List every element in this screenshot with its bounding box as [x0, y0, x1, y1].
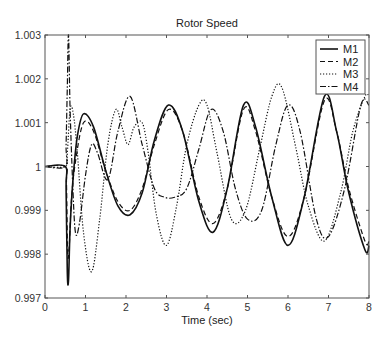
x-tick-label: 0 [42, 301, 48, 313]
y-tick-label: 1 [35, 161, 41, 173]
x-axis-label: Time (sec) [45, 314, 369, 326]
legend: M1M2M3M4 [316, 40, 365, 94]
y-tick-label: 1.002 [15, 73, 41, 85]
x-tick-label: 5 [245, 301, 251, 313]
legend-label-m1: M1 [343, 43, 358, 55]
y-tick-label: 0.998 [15, 248, 41, 260]
x-tick-label: 2 [123, 301, 129, 313]
line-chart: 0123456780.9970.9980.99911.0011.0021.003… [0, 0, 391, 340]
y-tick-label: 1.003 [15, 29, 41, 41]
series-m2 [45, 98, 369, 258]
x-tick-label: 3 [164, 301, 170, 313]
legend-label-m3: M3 [343, 68, 358, 80]
y-tick-label: 0.999 [15, 204, 41, 216]
x-tick-label: 1 [83, 301, 89, 313]
legend-label-m4: M4 [343, 81, 358, 93]
y-tick-label: 0.997 [15, 292, 41, 304]
series-m1 [45, 94, 369, 285]
y-tick-label: 1.001 [15, 117, 41, 129]
x-tick-label: 7 [326, 301, 332, 313]
x-tick-label: 8 [366, 301, 372, 313]
legend-label-m2: M2 [343, 56, 358, 68]
x-tick-label: 4 [204, 301, 210, 313]
x-tick-label: 6 [285, 301, 291, 313]
